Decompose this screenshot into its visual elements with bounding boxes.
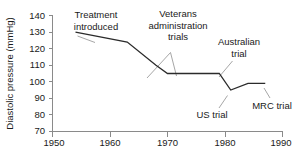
- y-tick-label-80: 80: [34, 109, 45, 120]
- annotation-us-trial: US trial: [196, 109, 227, 120]
- chart-container: 140 130 120 110 100 90 80 70 Diastolic p…: [0, 0, 302, 162]
- y-tick-label-110: 110: [30, 59, 45, 70]
- annotation-mrc-trial: MRC trial: [252, 100, 292, 111]
- y-tick-label-70: 70: [34, 125, 45, 136]
- annotation-mrc-trial-label: MRC trial: [252, 100, 292, 111]
- y-tick-label-100: 100: [29, 76, 45, 87]
- annotation-veterans-line-3: trials: [168, 31, 188, 42]
- x-tick-label-1980: 1980: [214, 137, 235, 148]
- x-tick-label-1960: 1960: [99, 137, 120, 148]
- x-tick-label-1950: 1950: [43, 137, 64, 148]
- annotation-veterans-line-2: administration: [148, 20, 207, 31]
- y-tick-label-140: 140: [29, 10, 45, 21]
- x-tick-label-1970: 1970: [157, 137, 178, 148]
- annotation-australian-line-2: trial: [231, 48, 246, 59]
- y-tick-label-90: 90: [34, 92, 45, 103]
- annotation-veterans-line-1: Veterans: [159, 8, 197, 19]
- annotation-australian-line-1: Australian: [218, 36, 260, 47]
- annotation-treatment-line-1: Treatment: [75, 9, 118, 20]
- y-axis-title: Diastolic pressure (mmHg): [4, 17, 15, 129]
- y-tick-label-120: 120: [29, 43, 45, 54]
- y-tick-label-130: 130: [29, 26, 45, 37]
- annotation-treatment-line-2: introduced: [74, 21, 118, 32]
- x-tick-label-1990: 1990: [270, 137, 291, 148]
- annotation-us-trial-label: US trial: [196, 109, 227, 120]
- annotation-treatment-introduced: Treatment introduced: [74, 9, 118, 32]
- diastolic-pressure-line-chart: 140 130 120 110 100 90 80 70 Diastolic p…: [0, 0, 302, 162]
